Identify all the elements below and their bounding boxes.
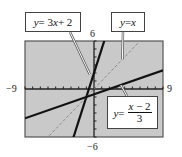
label-rest: + 2 (58, 16, 72, 28)
label-eq: = (118, 107, 124, 119)
label-line-x-minus-2-over-3: y = x − 2 3 (107, 96, 158, 129)
num-rest: − 2 (133, 100, 150, 112)
fraction: x − 2 3 (128, 101, 152, 124)
tick-label-ymin: −6 (87, 141, 98, 152)
tick-label-xmax: 9 (167, 83, 172, 94)
tick-label-xmin: −9 (6, 83, 17, 94)
leader-line2-inner (122, 32, 123, 59)
label-eq: = 3 (39, 16, 53, 28)
fraction-denominator: 3 (137, 113, 143, 124)
label-line-3x-plus-2: y = 3 x + 2 (25, 12, 81, 32)
tick-label-ymax: 6 (90, 28, 95, 39)
label-line-y-equals-x: y = x (111, 12, 145, 32)
label-x: x (131, 16, 136, 28)
